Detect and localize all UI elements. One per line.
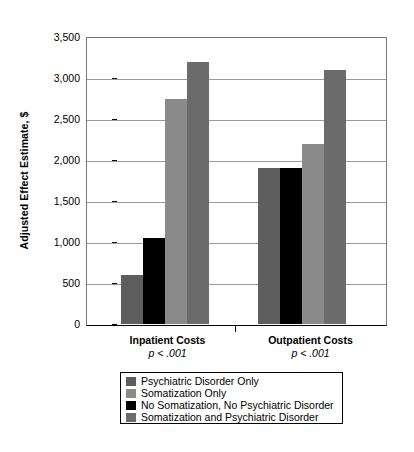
bar-chart: Adjusted Effect Estimate, $ 3,5003,0002,… xyxy=(0,0,414,452)
legend: Psychiatric Disorder OnlySomatization On… xyxy=(120,372,343,424)
bar xyxy=(280,168,302,324)
legend-item: No Somatization, No Psychiatric Disorder xyxy=(126,400,342,412)
category-pvalue: p < .001 xyxy=(238,347,383,360)
bar xyxy=(302,144,324,324)
group-separator-tick xyxy=(235,325,236,332)
legend-label: Somatization Only xyxy=(141,388,226,399)
y-tick-label: 1,500 xyxy=(34,196,80,206)
legend-swatch-icon xyxy=(126,389,136,398)
category-name: Outpatient Costs xyxy=(238,334,383,347)
bar xyxy=(258,168,280,324)
category-label-outpatient: Outpatient Costs p < .001 xyxy=(238,334,383,360)
p-italic: p < .001 xyxy=(291,347,329,359)
legend-swatch-icon xyxy=(126,401,136,410)
p-italic: p < .001 xyxy=(148,347,186,359)
y-tick-label: 1,000 xyxy=(34,237,80,247)
legend-swatch-icon xyxy=(126,413,136,422)
bars-layer xyxy=(86,37,385,324)
y-tick-label: 0 xyxy=(34,319,80,329)
legend-label: No Somatization, No Psychiatric Disorder xyxy=(141,400,334,411)
category-name: Inpatient Costs xyxy=(100,334,235,347)
y-tick-label: 500 xyxy=(34,278,80,288)
bar xyxy=(121,275,143,324)
legend-item: Somatization and Psychiatric Disorder xyxy=(126,412,342,424)
bar xyxy=(143,238,165,324)
category-label-inpatient: Inpatient Costs p < .001 xyxy=(100,334,235,360)
y-axis-title: Adjusted Effect Estimate, $ xyxy=(14,37,34,324)
bar xyxy=(165,99,187,325)
y-axis-tick-labels: 3,5003,0002,5002,0001,5001,0005000 xyxy=(32,0,80,452)
legend-swatch-icon xyxy=(126,377,136,386)
y-tick-label: 3,000 xyxy=(34,73,80,83)
legend-item: Somatization Only xyxy=(126,388,342,400)
bar xyxy=(324,70,346,324)
bar xyxy=(187,62,209,324)
legend-item: Psychiatric Disorder Only xyxy=(126,376,342,388)
category-pvalue: p < .001 xyxy=(100,347,235,360)
y-tick-label: 2,000 xyxy=(34,155,80,165)
y-tick-label: 2,500 xyxy=(34,114,80,124)
legend-label: Somatization and Psychiatric Disorder xyxy=(141,412,318,423)
legend-label: Psychiatric Disorder Only xyxy=(141,376,259,387)
y-tick-label: 3,500 xyxy=(34,32,80,42)
